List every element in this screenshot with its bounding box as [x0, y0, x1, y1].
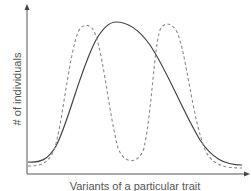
- y-axis-arrow-icon: [25, 4, 30, 10]
- x-axis-label: Variants of a particular trait: [30, 180, 240, 191]
- chart-canvas: [0, 0, 251, 191]
- x-axis-arrow-icon: [244, 172, 250, 177]
- y-axis-label: # of individuals: [10, 44, 24, 134]
- series-solid-curve: [28, 22, 242, 165]
- series-dashed-curve: [28, 24, 242, 168]
